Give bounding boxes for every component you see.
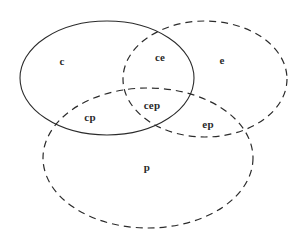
region-label-c: c	[59, 56, 64, 67]
venn-diagram-canvas	[0, 0, 298, 241]
region-label-e: e	[219, 55, 224, 66]
region-label-cep: cep	[144, 100, 160, 111]
region-label-cp: cp	[84, 112, 95, 123]
set-ellipse-c	[20, 21, 194, 135]
region-label-p: p	[144, 162, 150, 173]
region-label-ep: ep	[202, 119, 213, 130]
venn-diagram: c ce e cp cep ep p	[0, 0, 298, 241]
region-label-ce: ce	[155, 52, 165, 63]
